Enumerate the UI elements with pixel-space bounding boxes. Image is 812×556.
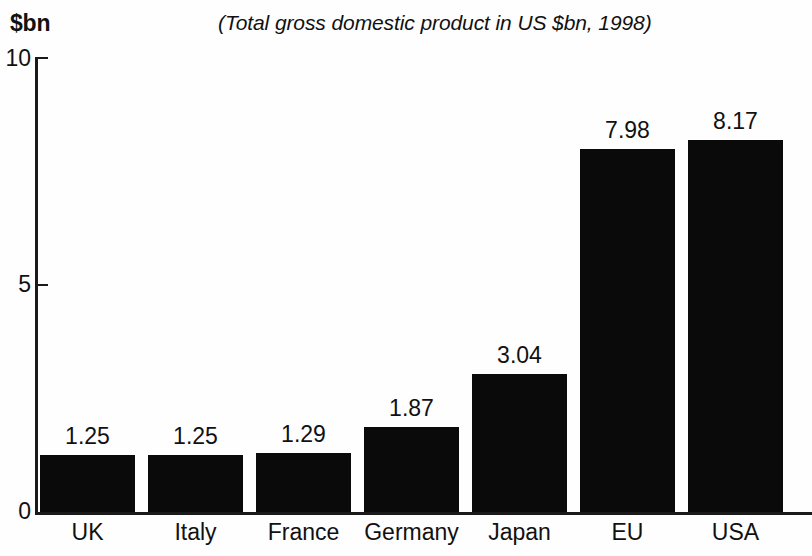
plot-area: 10 5 0 1.25UK1.25Italy1.29France1.87Germ… xyxy=(0,0,812,556)
y-tick-mark-10 xyxy=(38,57,48,59)
y-tick-mark-5 xyxy=(38,284,48,286)
bar-value-label-uk: 1.25 xyxy=(40,425,135,448)
x-axis-label-uk: UK xyxy=(40,521,135,544)
bar-uk xyxy=(40,455,135,512)
x-axis-label-eu: EU xyxy=(580,521,675,544)
bar-value-label-eu: 7.98 xyxy=(580,119,675,142)
bar-germany xyxy=(364,427,459,512)
x-axis-label-usa: USA xyxy=(688,521,783,544)
gdp-bar-chart: $bn (Total gross domestic product in US … xyxy=(0,0,812,556)
bar-value-label-france: 1.29 xyxy=(256,423,351,446)
bar-japan xyxy=(472,374,567,512)
y-tick-label-5: 5 xyxy=(0,273,31,296)
bar-italy xyxy=(148,455,243,512)
bar-france xyxy=(256,453,351,512)
x-axis-label-italy: Italy xyxy=(148,521,243,544)
bar-usa xyxy=(688,140,783,512)
x-axis-line xyxy=(35,512,812,515)
bar-value-label-japan: 3.04 xyxy=(472,344,567,367)
y-tick-label-0: 0 xyxy=(0,500,31,523)
x-axis-label-germany: Germany xyxy=(364,521,459,544)
bar-value-label-usa: 8.17 xyxy=(688,110,783,133)
x-axis-label-japan: Japan xyxy=(472,521,567,544)
bar-eu xyxy=(580,149,675,512)
y-tick-label-10: 10 xyxy=(0,47,31,70)
bar-value-label-italy: 1.25 xyxy=(148,425,243,448)
x-axis-label-france: France xyxy=(256,521,351,544)
bar-value-label-germany: 1.87 xyxy=(364,397,459,420)
